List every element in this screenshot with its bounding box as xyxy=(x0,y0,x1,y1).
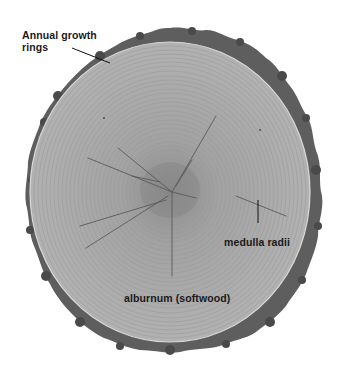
label-annual-growth-rings-line1: Annual growth xyxy=(22,29,97,41)
tree-cross-section-diagram: Annual growth rings medulla radii alburn… xyxy=(0,0,342,373)
label-alburnum: alburnum (softwood) xyxy=(124,292,230,304)
trunk-illustration xyxy=(0,0,342,373)
label-annual-growth-rings: Annual growth rings xyxy=(22,29,97,53)
label-annual-growth-rings-line2: rings xyxy=(22,41,97,53)
label-medulla-radii: medulla radii xyxy=(224,236,290,248)
